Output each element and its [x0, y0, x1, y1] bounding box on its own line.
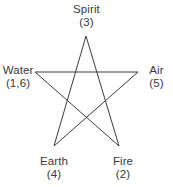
- vertex-label-earth: Earth (4): [26, 155, 82, 180]
- vertex-label-water: Water (1,6): [0, 64, 36, 89]
- vertex-name-spirit: Spirit: [0, 3, 173, 16]
- vertex-label-spirit: Spirit (3): [0, 3, 173, 28]
- vertex-value-water: (1,6): [0, 77, 36, 90]
- vertex-name-fire: Fire: [95, 155, 151, 168]
- pentagram-diagram: Spirit (3) Air (5) Fire (2) Earth (4) Wa…: [0, 0, 173, 187]
- vertex-value-fire: (2): [95, 168, 151, 181]
- vertex-name-water: Water: [0, 64, 36, 77]
- vertex-value-spirit: (3): [0, 16, 173, 29]
- vertex-value-earth: (4): [26, 168, 82, 181]
- vertex-label-fire: Fire (2): [95, 155, 151, 180]
- star-outline-path: [35, 36, 138, 146]
- vertex-name-air: Air: [140, 64, 173, 77]
- vertex-name-earth: Earth: [26, 155, 82, 168]
- vertex-value-air: (5): [140, 77, 173, 90]
- vertex-label-air: Air (5): [140, 64, 173, 89]
